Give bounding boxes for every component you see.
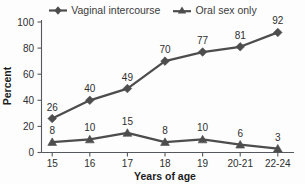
data-point-label: 3 (275, 132, 281, 143)
data-point-label: 49 (122, 72, 134, 83)
y-tick-label-80: 80 (23, 43, 35, 54)
data-point-label: 92 (272, 15, 284, 26)
data-point-marker (236, 42, 245, 51)
x-tick-label-19: 19 (197, 158, 209, 169)
y-tick-label-60: 60 (23, 69, 35, 80)
x-tick-label-18: 18 (159, 158, 171, 169)
data-point-marker (198, 48, 207, 57)
data-point-label: 6 (237, 128, 243, 139)
y-axis-title: Percent (1, 66, 13, 105)
y-tick-label-100: 100 (17, 17, 34, 28)
data-point-label: 10 (197, 122, 209, 133)
x-tick-label-15: 15 (47, 158, 59, 169)
y-tick-label-0: 0 (28, 147, 34, 158)
data-point-label: 81 (235, 30, 247, 41)
data-point-label: 15 (122, 116, 134, 127)
data-point-marker (48, 114, 57, 123)
y-tick-label-40: 40 (23, 95, 35, 106)
data-point-label: 40 (84, 83, 96, 94)
data-point-label: 10 (84, 122, 96, 133)
y-axis-ticks (38, 22, 42, 153)
chart-container: Vaginal intercourse Oral sex only 100 80 (0, 0, 305, 184)
y-tick-label-20: 20 (23, 121, 35, 132)
x-tick-label-16: 16 (84, 158, 96, 169)
data-point-label: 26 (47, 102, 59, 113)
x-axis-title: Years of age (134, 170, 196, 182)
data-point-label: 8 (49, 125, 55, 136)
data-point-label: 8 (162, 125, 168, 136)
x-tick-label-17: 17 (122, 158, 134, 169)
data-point-marker (274, 28, 283, 37)
chart-plot-area: 100 80 60 40 20 0 15 16 17 18 19 20-21 2… (0, 0, 305, 184)
data-point-label: 70 (159, 44, 171, 55)
data-point-marker (86, 96, 95, 105)
x-tick-label-20-21: 20-21 (227, 158, 253, 169)
x-tick-label-22-24: 22-24 (265, 158, 291, 169)
x-axis-ticks (52, 153, 278, 157)
series-markers-vaginal-intercourse (48, 28, 282, 123)
data-point-label: 77 (197, 35, 209, 46)
